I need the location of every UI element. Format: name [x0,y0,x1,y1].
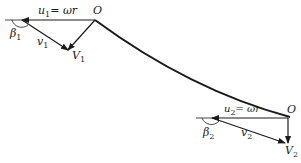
outlet-origin-label: O [287,104,296,115]
velocity-triangle-diagram [0,0,301,163]
blade-curve [95,20,290,117]
inlet-beta-label: β1 [10,28,21,42]
inlet-v-label: v1 [37,36,48,50]
inlet-origin-label: O [93,5,102,16]
outlet-u-label: u2= ωr [224,104,260,117]
inlet-V-vector [68,20,95,50]
outlet-v-label: v2 [241,127,252,141]
inlet-V-label: V1 [72,50,85,64]
outlet-beta-label: β2 [203,127,214,141]
outlet-V-label: V2 [285,145,298,159]
inlet-u-label: u1= ωr [38,5,77,19]
